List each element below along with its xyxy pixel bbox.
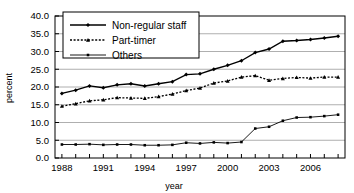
y-tick-label: 5.0	[36, 135, 49, 146]
chart-legend: Non-regular staffPart-timerOthers	[63, 12, 199, 61]
x-axis-title: year	[165, 181, 183, 191]
data-point	[309, 116, 312, 119]
x-tick-label: 1997	[176, 162, 197, 173]
data-point	[74, 143, 77, 146]
data-point	[323, 115, 326, 118]
data-point	[337, 113, 340, 116]
x-tick-label: 2000	[217, 162, 238, 173]
data-point	[61, 143, 64, 146]
data-point	[157, 144, 160, 147]
x-tick-label: 1988	[51, 162, 72, 173]
data-point	[171, 144, 174, 147]
y-tick-label: 25.0	[31, 64, 50, 75]
data-point	[116, 143, 119, 146]
data-point	[226, 142, 229, 145]
y-tick-label: 30.0	[31, 46, 50, 57]
chart-figure: 0.05.010.015.020.025.030.035.040.0 19881…	[0, 0, 354, 193]
legend-label: Others	[112, 50, 142, 61]
legend-label: Non-regular staff	[112, 20, 187, 31]
data-point	[213, 141, 216, 144]
x-tick-label: 1991	[93, 162, 114, 173]
data-point	[199, 142, 202, 145]
data-point	[87, 54, 90, 57]
y-tick-label: 40.0	[31, 10, 50, 21]
data-point	[185, 141, 188, 144]
y-tick-label: 10.0	[31, 117, 50, 128]
x-tick-label: 1994	[134, 162, 155, 173]
data-point	[143, 144, 146, 147]
data-point	[240, 141, 243, 144]
data-point	[130, 143, 133, 146]
x-tick-label: 2006	[300, 162, 321, 173]
data-point	[88, 143, 91, 146]
y-tick-label: 35.0	[31, 28, 50, 39]
y-axis-title: percent	[4, 72, 14, 103]
data-point	[102, 144, 105, 147]
x-tick-label: 2003	[258, 162, 279, 173]
data-point	[268, 125, 271, 128]
data-point	[254, 127, 257, 130]
line-chart: 0.05.010.015.020.025.030.035.040.0 19881…	[0, 0, 354, 193]
data-point	[295, 116, 298, 119]
y-tick-label: 0.0	[36, 152, 49, 163]
legend-label: Part-timer	[112, 35, 157, 46]
data-point	[282, 119, 285, 122]
y-tick-label: 20.0	[31, 81, 50, 92]
y-tick-label: 15.0	[31, 99, 50, 110]
